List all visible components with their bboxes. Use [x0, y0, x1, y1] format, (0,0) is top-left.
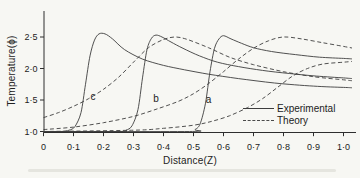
x-tick-label: 0·6: [217, 142, 230, 152]
legend: Experimental Theory: [243, 102, 335, 126]
y-axis-title: Temperature(ϕ): [6, 35, 17, 106]
x-tick-label: 0·7: [247, 142, 260, 152]
figure-container: 00·10·20·30·40·50·60·70·80·91·01·01·52·0…: [0, 0, 360, 178]
legend-label-experimental: Experimental: [277, 103, 335, 114]
y-tick-label: 1·0: [24, 127, 37, 137]
scan-smudge-artifact: [28, 169, 336, 172]
legend-row-experimental: Experimental: [243, 102, 335, 114]
curve-label-c: c: [91, 91, 96, 102]
solid-line-sample-icon: [243, 108, 274, 109]
dashed-line-sample-icon: [243, 120, 274, 121]
x-tick-label: 1·0: [337, 142, 350, 152]
curve-label-a: a: [206, 94, 212, 105]
y-tick-label: 2·0: [24, 64, 37, 74]
plot-svg: 00·10·20·30·40·50·60·70·80·91·01·01·52·0…: [0, 0, 360, 178]
legend-row-theory: Theory: [243, 114, 335, 126]
x-tick-label: 0: [41, 142, 46, 152]
y-tick-label: 2·5: [24, 32, 37, 42]
x-tick-label: 0·9: [307, 142, 320, 152]
x-tick-label: 0·8: [277, 142, 290, 152]
curve-label-b: b: [153, 93, 159, 104]
x-tick-label: 0·1: [67, 142, 80, 152]
legend-label-theory: Theory: [277, 115, 308, 126]
y-tick-label: 1·5: [24, 95, 37, 105]
x-axis-title: Distance(Z): [163, 155, 217, 166]
x-tick-label: 0·4: [157, 142, 170, 152]
x-tick-label: 0·2: [97, 142, 110, 152]
x-tick-label: 0·5: [187, 142, 200, 152]
x-tick-label: 0·3: [127, 142, 140, 152]
